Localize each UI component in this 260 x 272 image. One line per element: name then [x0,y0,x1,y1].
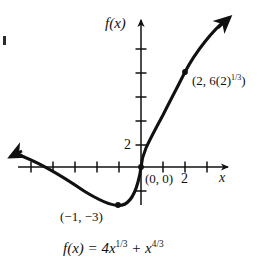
equation-exponent-1: 1/3 [116,239,128,249]
figure-root: f(x) x 2 2 (0, 0) (−1, −3) (2, 6(2)1/3) … [0,0,260,272]
function-curve [10,17,230,206]
point-label-minimum: (−1, −3) [60,210,103,223]
point-label-x2: (2, 6(2)1/3) [192,74,246,87]
point-marker-minimum [115,202,121,208]
graph-canvas [0,0,260,272]
point-label-origin: (0, 0) [145,172,173,185]
curve-right-arrowhead [218,17,230,28]
point-marker-origin [138,164,144,170]
point-label-x2-suffix: ) [241,73,245,88]
equation-exponent-2: 4/3 [152,239,164,249]
y-axis-label: f(x) [105,16,126,31]
point-marker-x2 [182,69,188,75]
equation-lead: f(x) = 4x [63,240,116,256]
x-axis-label: x [219,171,225,185]
curve-path [16,20,226,206]
x-axis-tick-label-2: 2 [181,172,188,186]
point-label-x2-prefix: (2, 6(2) [192,73,231,88]
equation-plus-term: + x [128,240,152,256]
y-axis-tick-label-2: 2 [124,138,131,152]
equation-caption: f(x) = 4x1/3 + x4/3 [63,240,164,256]
point-label-x2-exponent: 1/3 [231,73,241,82]
